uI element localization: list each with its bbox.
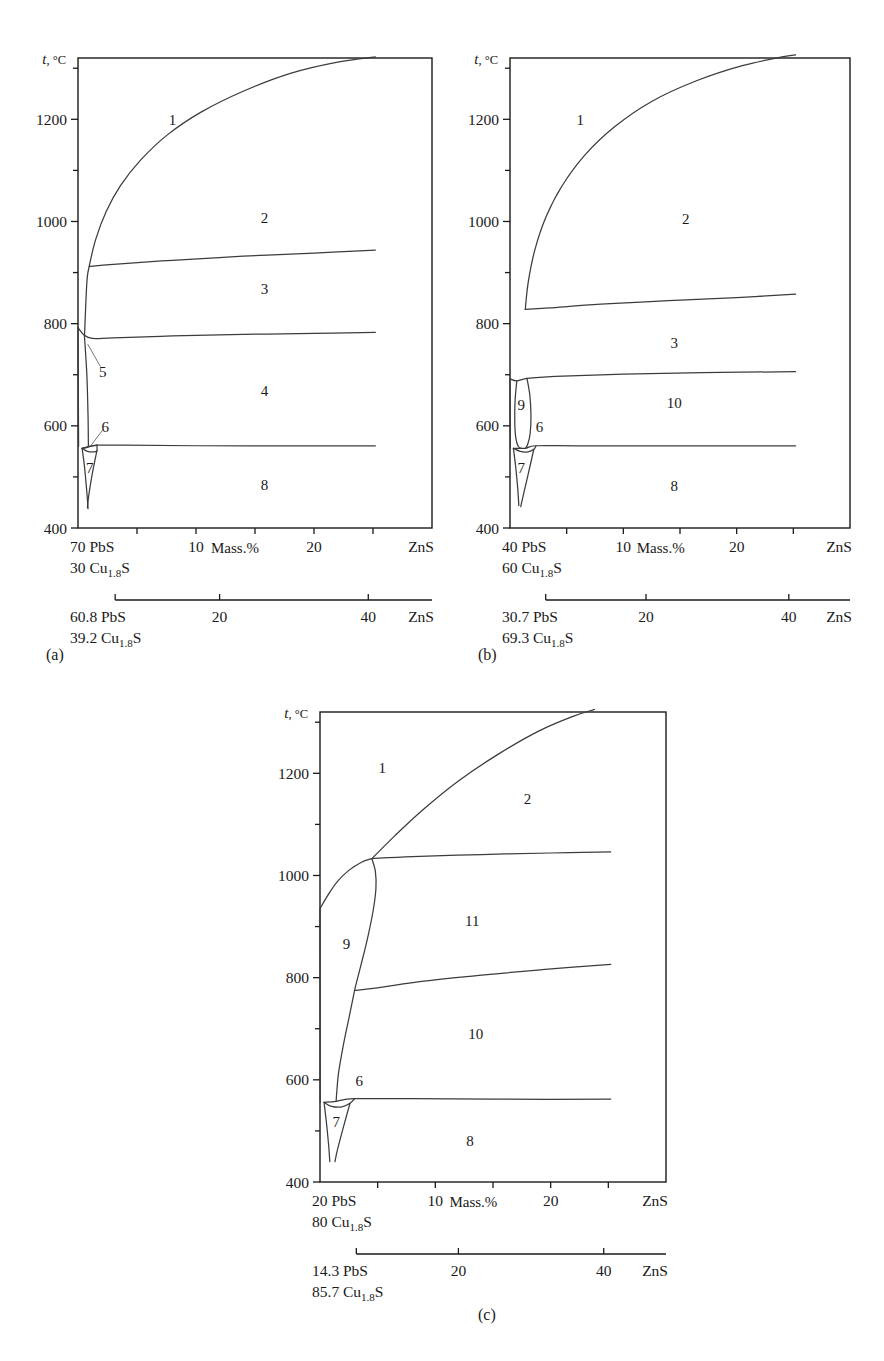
x-axis-right-label: ZnS: [642, 1192, 668, 1209]
region-label-1: 1: [169, 112, 177, 128]
curve-curve-7b: [521, 449, 534, 506]
region-label-4: 4: [261, 383, 269, 399]
region-label-2: 2: [682, 211, 690, 227]
curve-lens-6-upper: [82, 445, 97, 448]
y-axis-title-c: t, °C: [284, 705, 308, 721]
region-label-6: 6: [536, 419, 544, 435]
region-label-8: 8: [261, 477, 269, 493]
region-label-10: 10: [667, 395, 682, 411]
curve-curve-9-right: [355, 859, 377, 991]
curve-liquidus: [525, 55, 795, 309]
secondary-axis-tick-label: 40: [781, 608, 797, 625]
curve-curve-9-lower: [336, 990, 354, 1101]
region-label-2: 2: [261, 210, 269, 226]
x-axis-right-label: ZnS: [826, 538, 852, 555]
curve-liquidus-right: [372, 709, 595, 858]
secondary-axis-tick-label: 40: [596, 1262, 612, 1279]
y-tick-label: 800: [476, 315, 500, 332]
secondary-origin-line-0: 14.3 PbS: [312, 1262, 368, 1279]
secondary-axis-tick-label: 20: [638, 608, 654, 625]
region-label-9: 9: [343, 936, 351, 952]
y-tick-label: 400: [44, 520, 68, 537]
panel-caption-c: (c): [478, 1306, 496, 1324]
region-label-3: 3: [261, 281, 269, 297]
region-label-9: 9: [518, 397, 526, 413]
secondary-axis-right-label: ZnS: [408, 608, 434, 625]
secondary-origin-line-1: 85.7 Cu1.8S: [312, 1283, 383, 1303]
x-tick-label: 20: [543, 1192, 559, 1209]
secondary-axis-tick-label: 20: [451, 1262, 467, 1279]
region-label-7: 7: [518, 460, 526, 476]
y-tick-label: 1200: [278, 765, 309, 782]
x-tick-label: 10: [188, 538, 204, 555]
region-label-7: 7: [86, 460, 94, 476]
y-tick-label: 1000: [278, 867, 309, 884]
y-tick-label: 400: [476, 520, 500, 537]
secondary-origin-line-0: 60.8 PbS: [70, 608, 126, 625]
curve-solvus-5: [84, 336, 88, 446]
panel-caption-a: (a): [46, 646, 64, 664]
left-origin-line-0: 20 PbS: [312, 1192, 356, 1209]
chart-panel-b: t, °C400600800100012001020Mass.%ZnS40 Pb…: [468, 51, 852, 664]
region-label-8: 8: [671, 478, 679, 494]
y-tick-label: 1000: [468, 213, 499, 230]
x-tick-label: 20: [306, 538, 322, 555]
y-tick-label: 1200: [36, 111, 67, 128]
curve-curve-7: [513, 448, 518, 505]
x-axis-unit-label: Mass.%: [637, 540, 685, 556]
left-origin-line-1: 80 Cu1.8S: [312, 1213, 372, 1233]
phase-diagram-figure: t, °C400600800100012001020Mass.%ZnS70 Pb…: [0, 0, 884, 1361]
region-label-3: 3: [671, 335, 679, 351]
curve-curve-7: [82, 448, 88, 508]
region-label-2: 2: [524, 791, 532, 807]
y-tick-label: 1200: [468, 111, 499, 128]
y-tick-label: 1000: [36, 213, 67, 230]
y-tick-label: 800: [286, 969, 310, 986]
secondary-origin-line-1: 69.3 Cu1.8S: [502, 629, 573, 649]
region-label-10: 10: [468, 1026, 483, 1042]
secondary-origin-line-1: 39.2 Cu1.8S: [70, 629, 141, 649]
curve-peritectic-line: [372, 852, 611, 859]
plot-frame-a: [78, 58, 432, 528]
region-label-5: 5: [99, 364, 107, 380]
curve-liquidus: [84, 57, 375, 336]
secondary-axis-tick-label: 40: [361, 608, 377, 625]
curve-eutectic-line: [513, 446, 795, 449]
y-tick-label: 600: [286, 1071, 310, 1088]
curve-boundary-11-10: [355, 964, 611, 990]
region-label-1: 1: [577, 112, 585, 128]
region-label-8: 8: [466, 1133, 474, 1149]
region-label-6: 6: [101, 419, 109, 435]
curve-boundary-2-3: [89, 250, 375, 266]
curve-lens-9-left: [515, 381, 522, 448]
y-tick-label: 800: [44, 315, 68, 332]
curve-curve-7: [324, 1102, 330, 1161]
curve-liquidus-left: [320, 859, 372, 909]
x-axis-unit-label: Mass.%: [211, 540, 259, 556]
curve-boundary-3-4: [78, 328, 375, 339]
curve-eutectic-line: [324, 1099, 611, 1103]
curve-curve-7b: [335, 1103, 350, 1161]
secondary-origin-line-0: 30.7 PbS: [502, 608, 558, 625]
y-tick-label: 400: [286, 1174, 310, 1191]
left-origin-line-0: 40 PbS: [502, 538, 546, 555]
plot-frame-c: [320, 712, 666, 1182]
x-tick-label: 10: [428, 1192, 444, 1209]
left-origin-line-1: 60 Cu1.8S: [502, 559, 562, 579]
secondary-axis-tick-label: 20: [212, 608, 228, 625]
curve-left-edge-solid: [78, 328, 79, 447]
left-origin-line-0: 70 PbS: [70, 538, 114, 555]
curve-boundary-3-10: [510, 372, 796, 381]
y-tick-label: 600: [476, 417, 500, 434]
panel-caption-b: (b): [478, 646, 497, 664]
region-label-11: 11: [465, 913, 479, 929]
x-tick-label: 10: [616, 538, 632, 555]
region-label-7: 7: [332, 1114, 340, 1130]
secondary-axis-right-label: ZnS: [826, 608, 852, 625]
region-label-1: 1: [379, 760, 387, 776]
left-origin-line-1: 30 Cu1.8S: [70, 559, 130, 579]
secondary-axis-right-label: ZnS: [642, 1262, 668, 1279]
curve-boundary-2-3: [525, 294, 795, 309]
y-axis-title-a: t, °C: [42, 51, 66, 67]
x-axis-right-label: ZnS: [408, 538, 434, 555]
